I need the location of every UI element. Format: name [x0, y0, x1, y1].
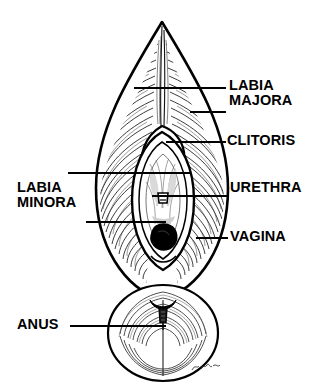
label-clitoris: CLITORIS	[227, 133, 295, 148]
perineum-region	[108, 285, 218, 381]
figure-canvas: LABIA MAJORA CLITORIS URETHRA VAGINA LAB…	[0, 0, 325, 391]
label-vagina: VAGINA	[230, 229, 286, 244]
label-labia-minora: LABIA MINORA	[17, 180, 76, 210]
label-labia-majora: LABIA MAJORA	[229, 78, 292, 108]
label-anus: ANUS	[17, 317, 59, 332]
vaginal-opening	[151, 224, 177, 250]
label-urethra: URETHRA	[230, 180, 302, 195]
label-labia-majora-line1: LABIA	[229, 78, 292, 93]
label-labia-minora-line2: MINORA	[17, 195, 76, 210]
label-anus-line1: ANUS	[17, 317, 59, 332]
label-labia-minora-line1: LABIA	[17, 180, 76, 195]
label-urethra-line1: URETHRA	[230, 180, 302, 195]
label-clitoris-line1: CLITORIS	[227, 133, 295, 148]
vulva-outline-group	[68, 22, 228, 381]
label-vagina-line1: VAGINA	[230, 229, 286, 244]
label-labia-majora-line2: MAJORA	[229, 93, 292, 108]
urethral-opening	[158, 193, 168, 203]
